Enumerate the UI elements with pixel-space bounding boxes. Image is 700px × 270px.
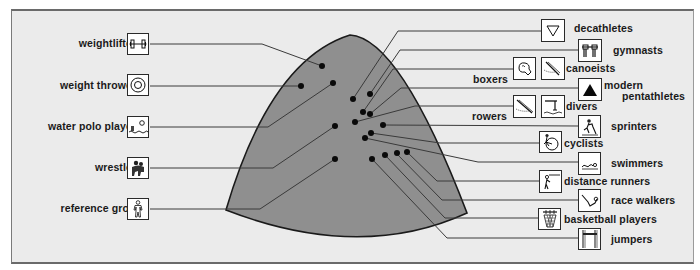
triangle-outline-icon (543, 21, 563, 41)
label-boxers: boxers (473, 73, 508, 85)
label-canoeists: canoeists (566, 62, 615, 74)
cyclists-icon-box (539, 131, 562, 153)
dot-cyclists (368, 130, 374, 136)
label-cyclists: cyclists (564, 137, 603, 149)
label-pentathletes: pentathletes (622, 90, 685, 102)
dumbbell-icon (128, 34, 148, 54)
canoe-paddle-icon (543, 59, 563, 79)
parallel-bars-icon (580, 41, 600, 61)
dot-weightlifters (319, 63, 325, 69)
bicycle-icon (541, 132, 561, 152)
runner-icon (541, 172, 561, 192)
dot-distance-runners (404, 149, 410, 155)
sprinter-icon (580, 117, 600, 137)
dot-wrestlers (332, 123, 338, 129)
weight-throwers-icon-box (127, 74, 149, 96)
dot-jumpers (369, 156, 375, 162)
filled-triangle-icon (580, 80, 600, 100)
label-rowers: rowers (472, 110, 507, 122)
dot-sprinters (380, 122, 386, 128)
dot-swimmers (362, 135, 368, 141)
swimmer-waves-icon (580, 154, 600, 174)
weightlifters-icon-box (127, 33, 149, 55)
rowers-icon-box (513, 95, 536, 118)
distance-runners-icon-box (539, 170, 562, 193)
water-polo-players-icon-box (127, 116, 149, 138)
dot-race-walkers (394, 150, 400, 156)
gymnasts-icon-box (578, 39, 602, 62)
basketball-players-icon-box (538, 208, 561, 230)
high-jump-bar-icon (580, 229, 600, 249)
reference-group-icon-box (127, 198, 149, 220)
boxing-glove-icon (515, 59, 535, 79)
swimmers-icon-box (578, 152, 601, 175)
divers-icon-box (541, 95, 565, 118)
label-race-walkers: race walkers (611, 194, 675, 206)
dot-gymnasts (367, 91, 373, 97)
basketball-hoop-icon (540, 209, 560, 229)
dot-water-polo-players (330, 80, 336, 86)
dot-rowers (352, 119, 358, 125)
dot-basketball-players (382, 152, 388, 158)
dot-reference-group (332, 156, 338, 162)
water-polo-icon (128, 117, 148, 137)
dot-decathletes (350, 96, 356, 102)
label-sprinters: sprinters (611, 120, 657, 132)
rowing-oar-icon (515, 97, 535, 117)
label-jumpers: jumpers (611, 233, 653, 245)
decathletes-icon-box (541, 19, 565, 42)
wrestlers-icon-box (127, 157, 149, 179)
standing-person-icon (128, 199, 148, 219)
label-basketball-players: basketball players (564, 213, 657, 225)
connector-weightlifters (150, 44, 322, 66)
diving-board-icon (543, 97, 563, 117)
label-divers: divers (566, 100, 598, 112)
label-decathletes: decathletes (574, 22, 633, 34)
sprinters-icon-box (578, 115, 601, 138)
race-walkers-icon-box (578, 189, 601, 212)
race-walker-icon (580, 191, 600, 211)
dot-modern-pentathletes (367, 111, 373, 117)
dot-weight-throwers (298, 83, 304, 89)
body-type-triangle (226, 35, 467, 237)
label-distance-runners: distance runners (564, 175, 650, 187)
label-swimmers: swimmers (611, 157, 663, 169)
canoeists-icon-box (541, 57, 565, 80)
jumpers-icon-box (578, 228, 601, 250)
target-circle-icon (128, 75, 148, 95)
modern-pentathletes-icon-box (578, 78, 602, 101)
dot-boxers (360, 109, 366, 115)
boxers-icon-box (513, 57, 536, 80)
wrestlers-icon (128, 158, 148, 178)
label-gymnasts: gymnasts (613, 44, 663, 56)
